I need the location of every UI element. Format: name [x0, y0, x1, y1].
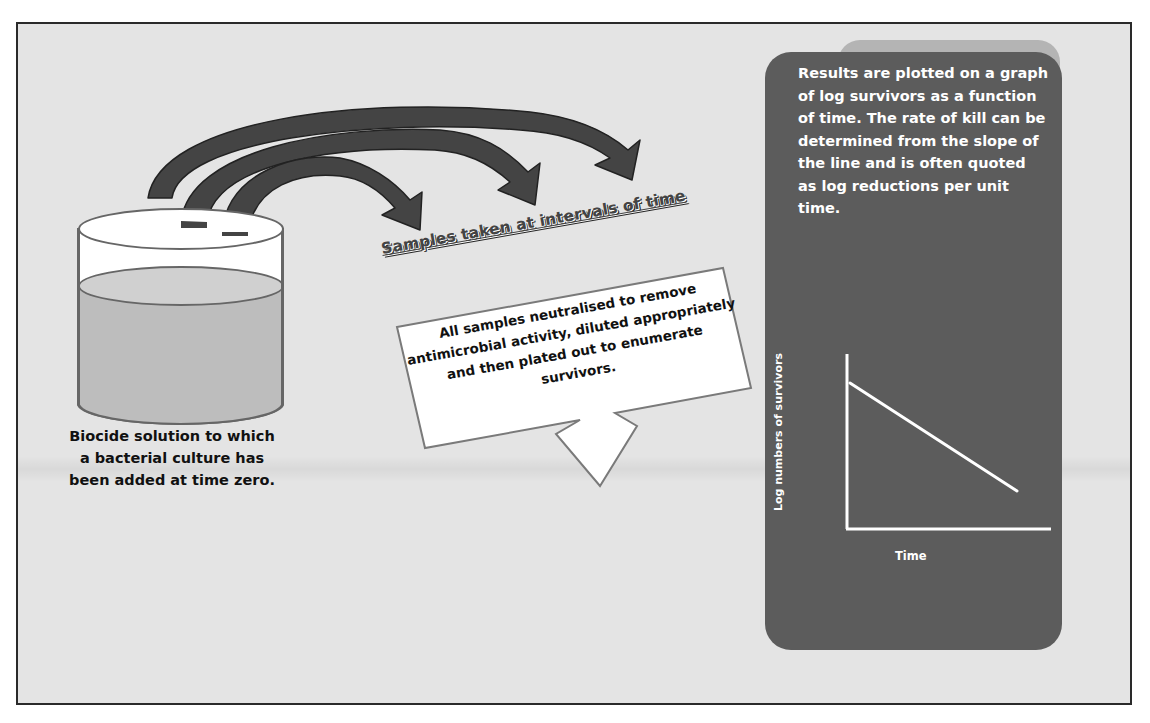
kill-line — [850, 383, 1017, 491]
results-text: Results are plotted on a graph of log su… — [798, 62, 1048, 220]
chart-axes — [765, 342, 1062, 582]
chart-y-label: Log numbers of survivors — [772, 347, 788, 517]
results-panel: Results are plotted on a graph of log su… — [765, 52, 1062, 650]
chart-x-label: Time — [895, 549, 927, 563]
beaker-icon — [78, 209, 283, 424]
beaker-label: Biocide solution to which a bacterial cu… — [62, 425, 282, 491]
kill-curve-chart: Log numbers of survivors Time — [765, 342, 1062, 582]
